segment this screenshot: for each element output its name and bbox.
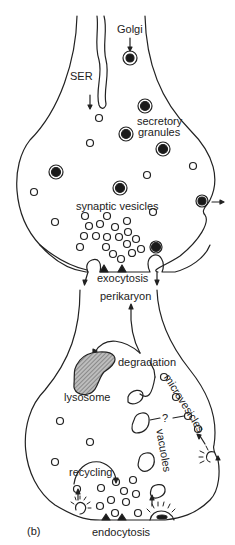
label-degradation: degradation: [118, 356, 176, 368]
label-question-mark: ?: [162, 412, 168, 424]
top-terminal-membrane-left: [17, 16, 87, 270]
label-secretory-granules-line2: granules: [138, 126, 180, 138]
label-recycling: recycling: [69, 466, 112, 478]
label-ser: SER: [70, 70, 93, 82]
label-exocytosis: exocytosis: [97, 272, 148, 284]
synaptic-vesicle-cluster: [77, 213, 145, 263]
label-perikaryon: perikaryon: [100, 290, 151, 302]
label-golgi: Golgi: [117, 23, 143, 35]
panel-label: (b): [27, 525, 40, 537]
top-terminal-membrane-right: [145, 16, 215, 272]
label-synaptic-vesicles: synaptic vesicles: [76, 200, 159, 212]
label-endocytosis: endocytosis: [92, 526, 150, 538]
lysosome-shape: [74, 352, 115, 395]
label-lysosome: lysosome: [64, 391, 110, 403]
ser-tube: [97, 16, 108, 108]
nerve-terminal-diagram: Golgi SER secretory granules synaptic ve…: [0, 0, 235, 545]
